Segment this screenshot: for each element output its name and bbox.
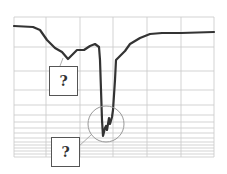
question-mark-lower: ? — [61, 144, 69, 160]
spectrum-curve — [14, 26, 214, 136]
question-box-upper: ? — [49, 66, 78, 96]
spectrum-diagram — [0, 0, 227, 174]
question-box-lower: ? — [51, 137, 80, 167]
question-mark-upper: ? — [59, 73, 67, 89]
upper-leader-line — [60, 58, 63, 66]
highlight-circle — [88, 106, 124, 142]
